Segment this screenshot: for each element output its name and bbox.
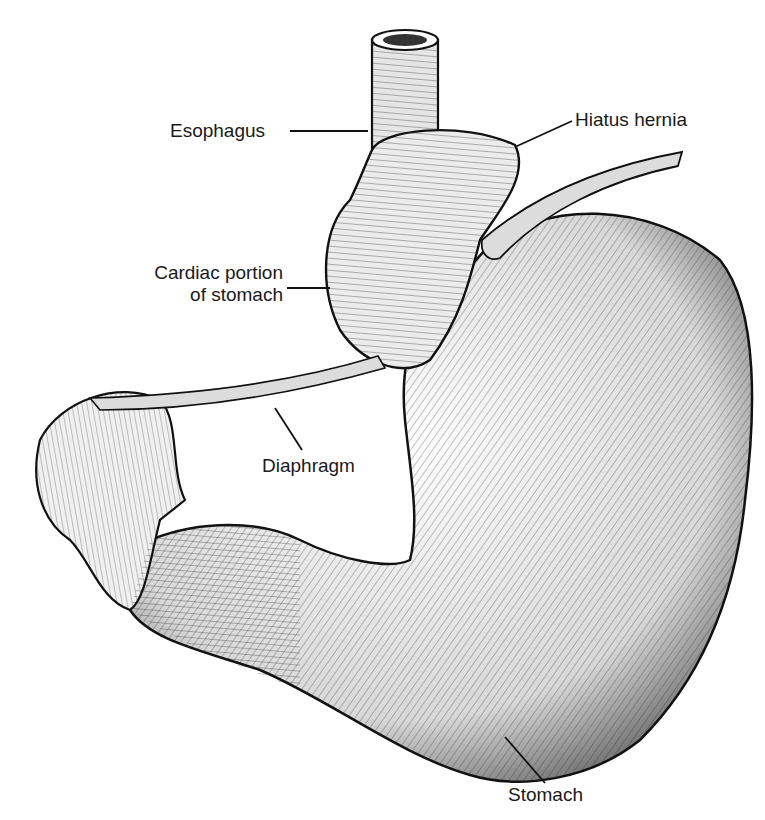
label-cardiac-line2: of stomach [128, 284, 283, 306]
pylorus-shape [36, 392, 300, 690]
label-cardiac-portion: Cardiac portion of stomach [128, 262, 283, 306]
hiatus-hernia-leader [515, 121, 572, 147]
anatomy-diagram: Esophagus Hiatus hernia Cardiac portion … [0, 0, 765, 820]
diaphragm-leader [275, 408, 302, 450]
label-esophagus: Esophagus [170, 120, 265, 142]
label-stomach: Stomach [508, 784, 583, 806]
diaphragm-lower [90, 356, 385, 410]
label-diaphragm: Diaphragm [262, 455, 355, 477]
label-cardiac-line1: Cardiac portion [128, 262, 283, 284]
label-hiatus-hernia: Hiatus hernia [575, 109, 687, 131]
